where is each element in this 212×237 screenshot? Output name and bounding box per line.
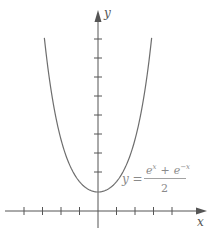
equation-e2-exponent: −x (180, 163, 190, 171)
equation-annotation: y = ex+e−x 2 (121, 163, 190, 195)
svg-text:y =: y = (121, 172, 143, 186)
equation-denominator: 2 (161, 182, 168, 195)
y-axis-label: y (103, 6, 111, 20)
x-axis-arrow-icon (196, 208, 207, 215)
x-axis-label: x (197, 215, 204, 229)
equation-e1-exponent: x (153, 163, 157, 171)
cosh-graph: y x y = ex+e−x 2 (0, 0, 212, 237)
y-axis-arrow-icon (95, 10, 102, 22)
x-axis (5, 207, 207, 215)
equation-lhs: y = (121, 172, 143, 186)
y-axis (94, 10, 102, 228)
svg-text:ex+e−x: ex+e−x (146, 163, 190, 177)
equation-plus: + (160, 164, 169, 177)
